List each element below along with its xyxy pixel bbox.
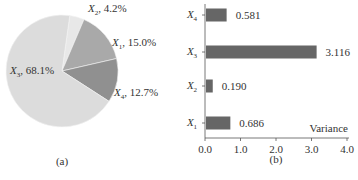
x-tick-label: 3.0 (305, 143, 319, 155)
slice-label: X2 (186, 79, 198, 94)
slice-label: X2, 4.2% (87, 2, 127, 17)
slice-label: X4, 12.7% (113, 86, 158, 101)
bar-value-label: 3.116 (326, 46, 351, 58)
x-tick-label: 0.0 (198, 143, 212, 155)
bar-x2 (206, 80, 213, 93)
slice-label: X3 (186, 45, 198, 60)
slice-label: X4 (186, 8, 198, 23)
bar-x1 (206, 117, 230, 130)
bar-chart: 0.581X43.116X30.190X20.686X10.01.02.03.0… (186, 4, 354, 155)
figure: X2, 4.2%X1, 15.0%X4, 12.7%X3, 68.1% (a) … (0, 0, 358, 180)
bar-x3 (206, 46, 317, 59)
slice-label: X1 (186, 116, 198, 131)
pie-chart: X2, 4.2%X1, 15.0%X4, 12.7%X3, 68.1% (6, 2, 158, 127)
slice-label: X1, 15.0% (111, 36, 156, 51)
x-tick-label: 4.0 (340, 143, 354, 155)
x-tick-label: 1.0 (234, 143, 248, 155)
pie-caption: (a) (56, 155, 69, 168)
bar-value-label: 0.190 (222, 80, 247, 92)
bar-caption: (b) (270, 153, 283, 166)
bar-value-label: 0.581 (236, 9, 261, 21)
x-axis-title: Variance (310, 122, 349, 134)
bar-value-label: 0.686 (239, 117, 264, 129)
bar-x4 (206, 9, 227, 22)
